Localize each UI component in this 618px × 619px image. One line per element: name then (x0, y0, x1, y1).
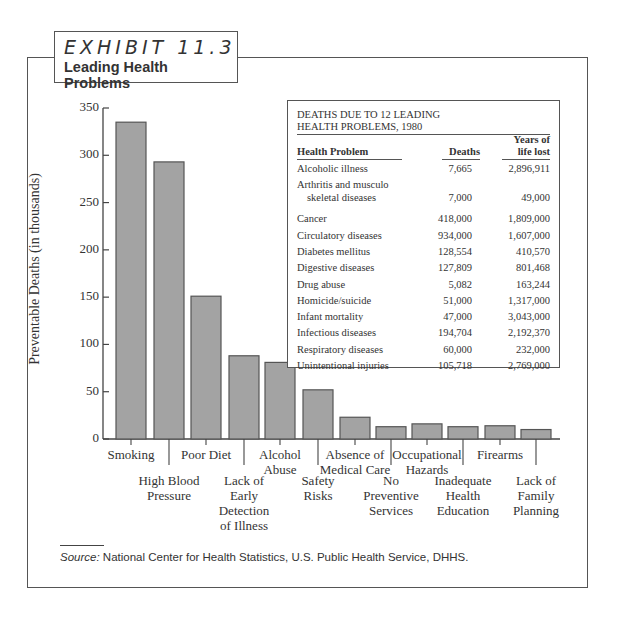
x-category-label-line: Poor Diet (181, 447, 231, 462)
cell-deaths: 7,665 (448, 163, 472, 175)
table-row: Alcoholic illness7,6652,896,911 (297, 163, 550, 176)
x-category-label-line: Lack of (513, 473, 559, 488)
x-category-label: Firearms (477, 447, 523, 462)
cell-health-problem: Infectious diseases (297, 327, 376, 339)
source-note: Source: National Center for Health Stati… (60, 551, 468, 563)
cell-deaths: 5,082 (448, 279, 472, 291)
cell-years-life-lost: 1,317,000 (508, 295, 550, 307)
cell-deaths: 418,000 (438, 213, 472, 225)
x-category-label-line: Education (434, 503, 491, 518)
bar-6: Safety Risks: 52 (303, 390, 333, 439)
x-category-label-line: Firearms (477, 447, 523, 462)
cell-years-life-lost: 2,896,911 (508, 163, 550, 175)
column-header-problem: Health Problem (297, 146, 402, 160)
bar-11: Firearms: 14 (485, 426, 515, 439)
x-category-label: High BloodPressure (138, 473, 199, 503)
bar-4: Lack of Early Detection of Illness: 88 (229, 356, 259, 439)
cell-health-problem: Alcoholic illness (297, 163, 368, 175)
source-label: Source: (60, 551, 100, 563)
cell-years-life-lost: 2,192,370 (508, 327, 550, 339)
cell-years-life-lost: 1,809,000 (508, 213, 550, 225)
table-title-rule (297, 134, 550, 135)
cell-deaths: 60,000 (443, 344, 472, 356)
cell-years-life-lost: 232,000 (516, 344, 550, 356)
y-tick-label: 50 (59, 383, 99, 399)
bar-2: High Blood Pressure: 293 (154, 162, 184, 439)
cell-health-problem: Diabetes mellitus (297, 246, 370, 258)
table-row: Homicide/suicide51,0001,317,000 (297, 295, 550, 308)
x-category-label: Lack ofEarlyDetectionof Illness (219, 473, 270, 533)
cell-deaths: 194,704 (438, 327, 472, 339)
y-tick-label: 350 (59, 99, 99, 115)
x-category-label: Lack ofFamilyPlanning (513, 473, 559, 518)
x-category-label-line: Inadequate (434, 473, 491, 488)
cell-deaths: 47,000 (443, 311, 472, 323)
x-category-label-line: Absence of (320, 447, 390, 462)
bar-10: Inadequate Health Education: 13 (448, 427, 478, 439)
source-text: National Center for Health Statistics, U… (100, 551, 469, 563)
table-row: Infant mortality47,0003,043,000 (297, 311, 550, 324)
y-tick-label: 250 (59, 194, 99, 210)
x-category-label-line: Health (434, 488, 491, 503)
cell-deaths: 105,718 (438, 360, 472, 372)
y-tick-label: 300 (59, 146, 99, 162)
cell-deaths: 127,809 (438, 262, 472, 274)
bar-8: No Preventive Services: 13 (376, 427, 406, 439)
table-title: DEATHS DUE TO 12 LEADING HEALTH PROBLEMS… (297, 109, 440, 133)
x-category-label-line: of Illness (219, 518, 270, 533)
bar-7: Absence of Medical Care: 23 (340, 417, 370, 439)
table-row: Digestive diseases127,809801,468 (297, 262, 550, 275)
cell-years-life-lost: 2,769,000 (508, 360, 550, 372)
x-category-label-line: Detection (219, 503, 270, 518)
bar-5: Alcohol Abuse: 81 (265, 362, 295, 439)
table-row: Drug abuse5,082163,244 (297, 279, 550, 292)
cell-health-problem: Drug abuse (297, 279, 345, 291)
table-title-line-2: HEALTH PROBLEMS, 1980 (297, 121, 440, 133)
column-header-years-line-2: life lost (502, 146, 550, 160)
cell-health-problem: Cancer (297, 213, 327, 225)
x-category-label-line: Preventive (363, 488, 419, 503)
x-category-label-line: Planning (513, 503, 559, 518)
cell-years-life-lost: 163,244 (516, 279, 550, 291)
x-category-label: SafetyRisks (301, 473, 334, 503)
table-row: Circulatory diseases934,0001,607,000 (297, 230, 550, 243)
x-category-label-line: Pressure (138, 488, 199, 503)
x-category-label-line: Abuse (259, 462, 301, 477)
x-category-label: InadequateHealthEducation (434, 473, 491, 518)
x-category-label: NoPreventiveServices (363, 473, 419, 518)
cell-deaths: 51,000 (443, 295, 472, 307)
cell-health-problem: Unintentional injuries (297, 360, 389, 372)
deaths-table: DEATHS DUE TO 12 LEADING HEALTH PROBLEMS… (287, 100, 560, 368)
x-category-label: Smoking (108, 447, 155, 462)
cell-deaths: 128,554 (438, 246, 472, 258)
x-category-label-line: High Blood (138, 473, 199, 488)
cell-health-problem: Circulatory diseases (297, 230, 382, 242)
bar-1: Smoking: 335 (116, 122, 146, 439)
table-row: Respiratory diseases60,000232,000 (297, 344, 550, 357)
y-tick-label: 0 (59, 430, 99, 446)
cell-health-problem: Infant mortality (297, 311, 363, 323)
table-row: Arthritis and musculoskeletal diseases7,… (297, 179, 550, 205)
table-row: Cancer418,0001,809,000 (297, 213, 550, 226)
table-title-line-1: DEATHS DUE TO 12 LEADING (297, 109, 440, 121)
x-category-label-line: Services (363, 503, 419, 518)
y-tick-label: 100 (59, 335, 99, 351)
source-divider (60, 545, 104, 546)
bar-9: Occupational Hazards: 16 (412, 424, 442, 439)
cell-health-problem: Homicide/suicide (297, 295, 371, 307)
cell-years-life-lost: 1,607,000 (508, 230, 550, 242)
cell-years-life-lost: 410,570 (516, 246, 550, 258)
cell-health-problem: Arthritis and musculo (297, 179, 389, 191)
x-category-label-line: Occupational (392, 447, 461, 462)
table-row: Diabetes mellitus128,554410,570 (297, 246, 550, 259)
cell-health-problem: Respiratory diseases (297, 344, 383, 356)
table-row: Unintentional injuries105,7182,769,000 (297, 360, 550, 373)
column-header-years-line-1: Years of (514, 134, 550, 146)
cell-years-life-lost: 49,000 (521, 192, 550, 204)
y-tick-label: 150 (59, 288, 99, 304)
y-tick-label: 200 (59, 241, 99, 257)
x-category-label-line: Risks (301, 488, 334, 503)
bar-12: Lack of Family Planning: 10 (521, 430, 551, 439)
x-category-label-line: Early (219, 488, 270, 503)
column-header-deaths: Deaths (442, 146, 480, 160)
